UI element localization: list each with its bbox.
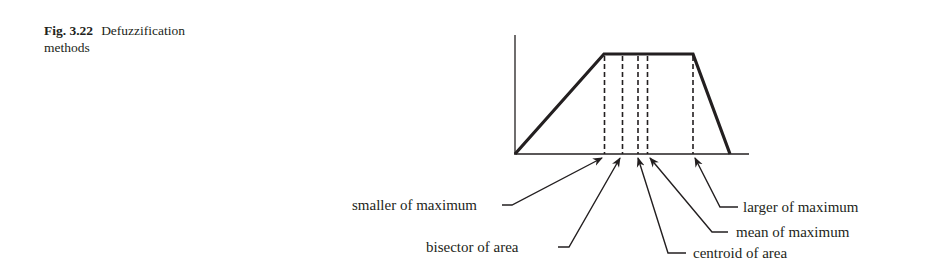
label-mean-of-maximum: mean of maximum xyxy=(736,224,850,240)
label-smaller-of-maximum: smaller of maximum xyxy=(352,197,477,213)
label-larger-of-maximum: larger of maximum xyxy=(743,199,859,215)
label-centroid-of-area: centroid of area xyxy=(693,245,787,261)
leader-smaller-of-maximum xyxy=(502,158,602,205)
defuzz-lines xyxy=(605,56,694,154)
leader-mean-of-maximum xyxy=(650,158,728,232)
defuzzification-diagram: smaller of maximum bisector of area larg… xyxy=(0,0,940,274)
leader-bisector-of-area xyxy=(558,158,620,247)
label-bisector-of-area: bisector of area xyxy=(426,239,519,255)
leader-larger-of-maximum xyxy=(695,158,738,207)
